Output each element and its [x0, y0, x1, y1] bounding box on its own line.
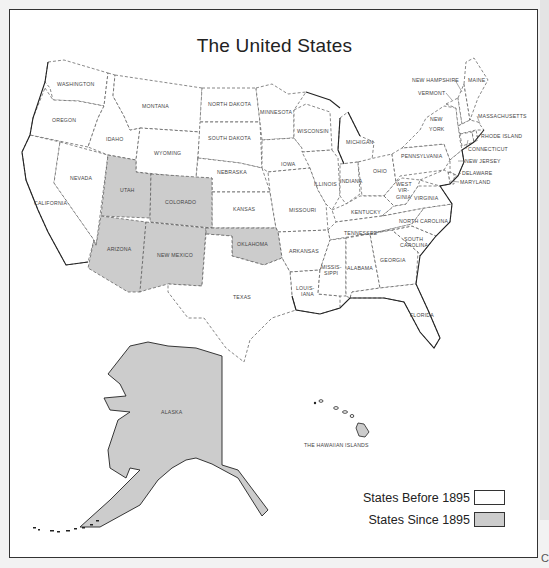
svg-text:MARYLAND: MARYLAND	[460, 179, 490, 185]
svg-text:OHIO: OHIO	[373, 168, 387, 174]
legend-swatch-white	[474, 490, 505, 505]
svg-text:MICHIGAN: MICHIGAN	[346, 139, 374, 145]
svg-text:CONNECTICUT: CONNECTICUT	[468, 146, 509, 152]
us-map: WASHINGTON OREGON CALIFORNIA NEVADA IDAH…	[0, 0, 549, 568]
svg-text:INDIANA: INDIANA	[340, 178, 363, 184]
svg-text:ALABAMA: ALABAMA	[347, 265, 373, 271]
svg-text:NEW MEXICO: NEW MEXICO	[157, 252, 193, 258]
state-michigan[interactable]	[338, 112, 374, 164]
svg-text:VIR-: VIR-	[398, 187, 409, 193]
svg-text:WASHINGTON: WASHINGTON	[57, 81, 95, 87]
svg-text:WISCONSIN: WISCONSIN	[297, 128, 329, 134]
svg-text:VIRGINIA: VIRGINIA	[414, 195, 439, 201]
page-corner-mark: C	[541, 552, 549, 564]
svg-text:THE HAWAIIAN ISLANDS: THE HAWAIIAN ISLANDS	[304, 442, 369, 448]
svg-text:MINNESOTA: MINNESOTA	[260, 109, 293, 115]
svg-text:ILLINOIS: ILLINOIS	[314, 181, 337, 187]
svg-text:ARIZONA: ARIZONA	[107, 246, 132, 252]
svg-text:SIPPI: SIPPI	[324, 270, 338, 276]
svg-text:OREGON: OREGON	[52, 117, 76, 123]
svg-text:TEXAS: TEXAS	[233, 294, 251, 300]
svg-text:YORK: YORK	[429, 126, 445, 132]
svg-text:NORTH CAROLINA: NORTH CAROLINA	[399, 218, 448, 224]
svg-text:IANA: IANA	[301, 291, 314, 297]
svg-text:NEVADA: NEVADA	[70, 175, 92, 181]
svg-text:DELAWARE: DELAWARE	[462, 170, 493, 176]
legend-swatch-gray	[474, 512, 505, 527]
svg-text:GINIA: GINIA	[396, 194, 411, 200]
svg-text:UTAH: UTAH	[120, 187, 135, 193]
svg-text:CAROLINA: CAROLINA	[400, 242, 428, 248]
svg-text:OKLAHOMA: OKLAHOMA	[237, 241, 268, 247]
svg-text:CALIFORNIA: CALIFORNIA	[34, 200, 67, 206]
svg-text:VERMONT: VERMONT	[418, 90, 446, 96]
svg-text:IOWA: IOWA	[281, 161, 296, 167]
svg-text:TENNESSEE: TENNESSEE	[344, 230, 378, 236]
hawaiian-islands	[314, 400, 369, 437]
svg-text:WYOMING: WYOMING	[154, 150, 181, 156]
svg-text:MAINE: MAINE	[468, 77, 486, 83]
legend-since-label: States Since 1895	[369, 513, 470, 527]
svg-text:PENNSYLVANIA: PENNSYLVANIA	[401, 153, 443, 159]
svg-text:NEW JERSEY: NEW JERSEY	[465, 158, 501, 164]
svg-text:FLORIDA: FLORIDA	[410, 312, 434, 318]
legend-before-1895: States Before 1895	[363, 490, 505, 505]
svg-text:NEW: NEW	[430, 116, 443, 122]
svg-text:GEORGIA: GEORGIA	[380, 257, 406, 263]
svg-text:IDAHO: IDAHO	[106, 136, 123, 142]
state-alaska[interactable]	[80, 342, 268, 527]
svg-text:SOUTH DAKOTA: SOUTH DAKOTA	[208, 135, 251, 141]
svg-text:KENTUCKY: KENTUCKY	[351, 209, 381, 215]
svg-text:ALASKA: ALASKA	[161, 409, 183, 415]
svg-text:MASSACHUSETTS: MASSACHUSETTS	[478, 113, 527, 119]
svg-text:RHODE ISLAND: RHODE ISLAND	[481, 133, 522, 139]
svg-text:ARKANSAS: ARKANSAS	[289, 248, 319, 254]
svg-text:NORTH DAKOTA: NORTH DAKOTA	[208, 101, 251, 107]
svg-text:COLORADO: COLORADO	[165, 199, 196, 205]
svg-text:NEW HAMPSHIRE: NEW HAMPSHIRE	[412, 77, 459, 83]
svg-text:KANSAS: KANSAS	[233, 206, 256, 212]
svg-text:NEBRASKA: NEBRASKA	[217, 169, 247, 175]
svg-text:MONTANA: MONTANA	[142, 103, 169, 109]
legend-before-label: States Before 1895	[363, 491, 470, 505]
legend-since-1895: States Since 1895	[369, 512, 505, 527]
svg-text:MISSOURI: MISSOURI	[289, 207, 316, 213]
